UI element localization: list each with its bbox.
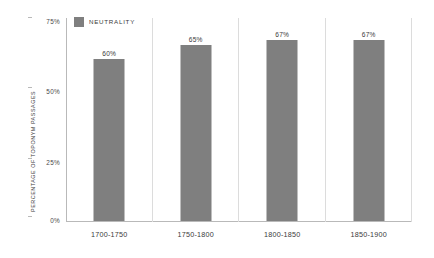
y-tick-mark-25	[28, 158, 32, 159]
y-tick-text-50: 50%	[46, 88, 60, 95]
legend-label-neutrality: NEUTRALITY	[89, 17, 135, 27]
y-tick-text-75: 75%	[46, 18, 60, 25]
bar-wrap-4: 67%	[326, 18, 413, 221]
bar-value-label-1800-1850: 67%	[275, 30, 289, 39]
y-tick-mark-0	[28, 216, 32, 217]
y-tick-label-0: 0%	[32, 216, 60, 226]
bar-value-label-1750-1800: 65%	[189, 35, 203, 44]
bar-1850-1900[interactable]	[353, 40, 384, 221]
x-tick-label-1800-1850: 1800-1850	[239, 228, 326, 242]
panel-1700-1750: 60%	[66, 18, 153, 222]
y-tick-label-75: 75%	[32, 17, 60, 27]
y-tick-mark-75	[28, 17, 32, 18]
y-tick-mark-50	[28, 87, 32, 88]
x-tick-label-1750-1800: 1750-1800	[153, 228, 240, 242]
bar-value-label-1850-1900: 67%	[362, 30, 376, 39]
y-axis-title: PERCENTAGE OF TOPONYM PASSAGES	[26, 12, 40, 212]
bar-wrap-3: 67%	[239, 18, 326, 221]
y-tick-label-25: 25%	[32, 158, 60, 168]
bar-1700-1750[interactable]	[94, 59, 125, 221]
bar-wrap-1: 60%	[66, 18, 153, 221]
bar-value-label-1700-1750: 60%	[102, 49, 116, 58]
y-tick-label-50: 50%	[32, 87, 60, 97]
chart-legend: NEUTRALITY	[74, 16, 135, 27]
y-tick-text-25: 25%	[46, 159, 60, 166]
panel-1750-1800: 65%	[153, 18, 240, 222]
panel-group: 60% 65% 67%	[66, 18, 412, 222]
panel-1800-1850: 67%	[239, 18, 326, 222]
bar-wrap-2: 65%	[153, 18, 240, 221]
y-tick-text-0: 0%	[50, 217, 60, 224]
bar-1800-1850[interactable]	[267, 40, 298, 221]
x-tick-label-1700-1750: 1700-1750	[66, 228, 153, 242]
x-tick-label-1850-1900: 1850-1900	[326, 228, 413, 242]
legend-swatch-icon	[74, 17, 84, 27]
panel-separator-4	[411, 18, 412, 222]
bar-chart: PERCENTAGE OF TOPONYM PASSAGES 75% 50% 2…	[0, 0, 434, 258]
panel-1850-1900: 67%	[326, 18, 413, 222]
x-axis-labels: 1700-1750 1750-1800 1800-1850 1850-1900	[66, 228, 412, 242]
plot-area: 75% 50% 25% 0% 60%	[66, 18, 412, 222]
bar-1750-1800[interactable]	[180, 45, 211, 221]
